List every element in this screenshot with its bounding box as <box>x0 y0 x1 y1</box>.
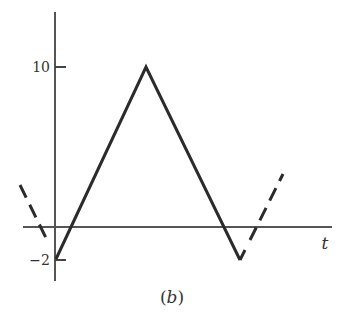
caption-letter: b <box>167 287 178 307</box>
caption-close-paren: ) <box>177 287 184 307</box>
caption-open-paren: ( <box>160 287 167 307</box>
right-dashed-continuation <box>250 174 283 240</box>
solid-waveform <box>56 67 240 260</box>
left-dashed-continuation <box>20 185 49 244</box>
figure-caption: (b) <box>160 287 184 307</box>
y-tick-label-10: 10 <box>32 59 50 75</box>
right-trough-dash <box>240 250 245 260</box>
t-axis-label: t <box>322 233 329 253</box>
waveform-diagram: 10 −2 t (b) <box>0 0 345 324</box>
y-tick-label-minus-2: −2 <box>29 252 50 268</box>
